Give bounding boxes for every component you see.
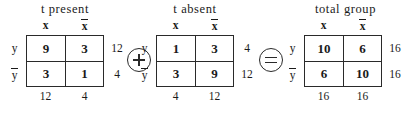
row-labels: y y (6, 35, 23, 87)
row-label-y-text: y (290, 42, 296, 54)
row-totals: 12 4 (106, 35, 128, 87)
cell-y-xbar: 3 (195, 36, 233, 61)
cell-y-x: 1 (157, 36, 195, 61)
column-totals: 16 16 (304, 90, 382, 102)
row-label-y: y (6, 35, 23, 61)
row-total-ybar: 4 (106, 61, 128, 87)
column-header-x-bar: x (65, 19, 104, 32)
row-total-ybar: 16 (384, 61, 406, 87)
column-header-x-bar-label: x (212, 19, 218, 32)
table-caption: total group (278, 2, 413, 17)
column-total-xbar: 4 (65, 90, 104, 102)
table-block-t-present: t present x x y y 9 3 3 1 12 4 (0, 0, 130, 119)
column-header-x-bar: x (195, 19, 234, 32)
contingency-grid: 9 3 3 1 (26, 35, 104, 87)
table-block-t-absent: t absent x x y y 1 3 3 9 4 12 (130, 0, 260, 119)
cell-ybar-x: 3 (27, 61, 65, 86)
row-label-y-bar: y (284, 61, 301, 87)
column-header-x-bar-label: x (360, 19, 366, 32)
row-totals: 4 12 (236, 35, 258, 87)
column-header-x: x (156, 19, 195, 32)
cell-y-xbar: 3 (65, 36, 103, 61)
column-totals: 12 4 (26, 90, 104, 102)
cell-y-xbar: 6 (343, 36, 381, 61)
column-total-xbar: 16 (343, 90, 382, 102)
column-headers: x x (304, 19, 382, 32)
cell-ybar-xbar: 9 (195, 61, 233, 86)
cell-y-x: 9 (27, 36, 65, 61)
column-header-x-label: x (173, 19, 179, 31)
column-headers: x x (156, 19, 234, 32)
row-label-y-bar-text: y (290, 68, 296, 81)
column-totals: 4 12 (156, 90, 234, 102)
column-header-x-label: x (43, 19, 49, 31)
column-total-xbar: 12 (195, 90, 234, 102)
column-header-x-label: x (321, 19, 327, 31)
table-block-total-group: total group x x y y 10 6 6 10 16 16 (278, 0, 413, 119)
row-label-y-bar-text: y (142, 68, 148, 81)
table-caption: t absent (130, 2, 260, 17)
column-header-x: x (304, 19, 343, 32)
column-header-x-bar: x (343, 19, 382, 32)
row-label-y: y (136, 35, 153, 61)
row-total-ybar: 12 (236, 61, 258, 87)
row-total-y: 16 (384, 35, 406, 61)
cell-ybar-x: 6 (305, 61, 343, 86)
column-total-x: 12 (26, 90, 65, 102)
row-total-y: 12 (106, 35, 128, 61)
column-total-x: 16 (304, 90, 343, 102)
row-label-y-text: y (12, 42, 18, 54)
row-labels: y y (136, 35, 153, 87)
row-labels: y y (284, 35, 301, 87)
row-total-y: 4 (236, 35, 258, 61)
table-caption: t present (0, 2, 130, 17)
row-totals: 16 16 (384, 35, 406, 87)
column-headers: x x (26, 19, 104, 32)
contingency-grid: 10 6 6 10 (304, 35, 382, 87)
row-label-y-bar: y (6, 61, 23, 87)
column-header-x-bar-label: x (82, 19, 88, 32)
row-label-y-bar: y (136, 61, 153, 87)
row-label-y-text: y (142, 42, 148, 54)
column-total-x: 4 (156, 90, 195, 102)
row-label-y-bar-text: y (12, 68, 18, 81)
contingency-grid: 1 3 3 9 (156, 35, 234, 87)
row-label-y: y (284, 35, 301, 61)
cell-y-x: 10 (305, 36, 343, 61)
contingency-table-figure: t present x x y y 9 3 3 1 12 4 (0, 0, 413, 119)
cell-ybar-xbar: 10 (343, 61, 381, 86)
column-header-x: x (26, 19, 65, 32)
cell-ybar-x: 3 (157, 61, 195, 86)
cell-ybar-xbar: 1 (65, 61, 103, 86)
